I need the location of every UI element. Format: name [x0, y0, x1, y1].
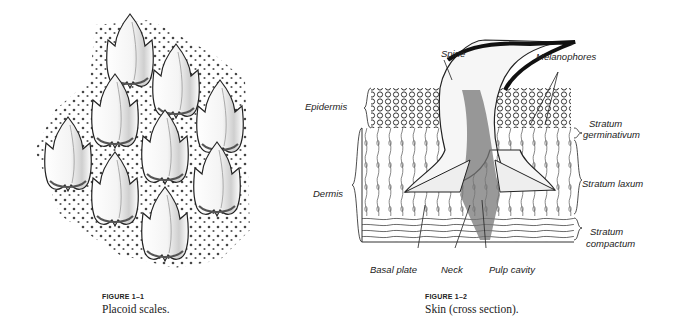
label-stratum-germinativum-1: Stratum [589, 118, 622, 129]
label-dermis: Dermis [313, 188, 343, 199]
label-melanophores: Melanophores [536, 51, 596, 62]
label-stratum-germinativum-2: germinativum [583, 129, 640, 140]
label-epidermis: Epidermis [305, 101, 347, 112]
label-neck: Neck [441, 264, 463, 275]
skin-cross-section-illustration [0, 0, 689, 333]
label-spine: Spine [441, 48, 465, 59]
figure-caption: Skin (cross section). [425, 303, 519, 315]
figure-1-2: Spine Melanophores Epidermis Stratum ger… [0, 0, 689, 333]
label-basal-plate: Basal plate [370, 264, 417, 275]
label-stratum-compactum-2: compactum [586, 238, 635, 249]
figure-number: FIGURE 1–2 [425, 293, 467, 300]
label-pulp-cavity: Pulp cavity [489, 264, 535, 275]
label-stratum-compactum-1: Stratum [590, 226, 623, 237]
label-stratum-laxum: Stratum laxum [582, 178, 643, 189]
